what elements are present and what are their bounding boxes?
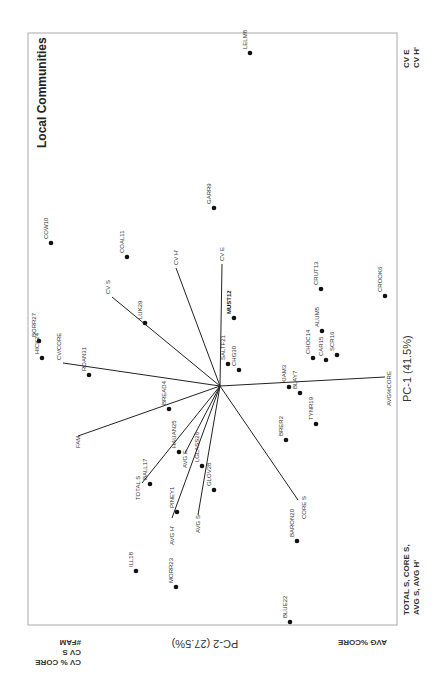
point-label: BLAY7 bbox=[292, 370, 298, 389]
vector-label: CV S bbox=[105, 280, 111, 294]
vector-labels: CV S CV H' CV E CV/CORE FAM TOTAL S AVG … bbox=[56, 247, 392, 545]
pc2-neg-label-2: AVG S, AVG H' bbox=[412, 560, 421, 615]
data-point bbox=[148, 482, 153, 487]
vector-label: AVG S bbox=[195, 515, 201, 533]
point-label: SCR16 bbox=[329, 331, 335, 351]
data-point bbox=[335, 353, 340, 358]
point-label: CAR15 bbox=[318, 336, 324, 356]
data-point bbox=[237, 368, 242, 373]
pc2-axis-label: PC-2 (27.5%) bbox=[172, 638, 239, 650]
data-point bbox=[49, 241, 54, 246]
point-label: BLUE22 bbox=[282, 595, 288, 618]
point-label: HICK24 bbox=[34, 332, 40, 354]
point-label: GARR9 bbox=[206, 183, 212, 204]
data-point bbox=[167, 407, 172, 412]
point-label: CHG30 bbox=[231, 345, 237, 366]
vector-core-s bbox=[220, 386, 298, 500]
point-label: ALUM5 bbox=[314, 306, 320, 327]
data-point bbox=[134, 569, 139, 574]
pc1-axis-label: PC-1 (41.5%) bbox=[401, 335, 413, 402]
pc1-neg-label-3: #FAM bbox=[59, 638, 81, 647]
vector-label: TOTAL S bbox=[135, 476, 141, 500]
data-point bbox=[383, 294, 388, 299]
data-point bbox=[314, 422, 319, 427]
pc2-pos-label-2: CV H' bbox=[412, 47, 421, 68]
point-label: GLOV28 bbox=[206, 462, 212, 486]
data-point bbox=[212, 206, 217, 211]
point-label: COAL11 bbox=[119, 230, 125, 253]
data-point bbox=[295, 539, 300, 544]
point-label: LUK29 bbox=[137, 300, 143, 319]
data-point bbox=[232, 316, 237, 321]
chart-title: Local Communities bbox=[35, 37, 49, 148]
data-point bbox=[311, 356, 316, 361]
plot-frame bbox=[28, 33, 397, 625]
point-label: BRER2 bbox=[278, 415, 284, 436]
sample-points: LELM8GARR9COW10COAL11BORR27HICK24LUK29MU… bbox=[31, 29, 387, 624]
data-point bbox=[298, 391, 303, 396]
data-point bbox=[40, 356, 45, 361]
vector-avg-s bbox=[198, 386, 220, 515]
loading-vectors bbox=[63, 264, 385, 518]
point-label: CRUT13 bbox=[313, 261, 319, 285]
pc1-pos-label: AVG %CORE bbox=[337, 638, 387, 647]
pc1-neg-label-2: CV S bbox=[62, 648, 81, 657]
pc2-neg-label-1: TOTAL S, CORE S, bbox=[402, 544, 411, 615]
vector-label: CV/CORE bbox=[56, 333, 62, 360]
data-point bbox=[320, 329, 325, 334]
vector-cv-e bbox=[220, 264, 222, 386]
pc2-pos-label-1: CV E bbox=[402, 49, 411, 68]
data-point bbox=[174, 585, 179, 590]
vector-label: FAM bbox=[75, 436, 81, 448]
point-label: COW10 bbox=[43, 217, 49, 239]
point-label: HAUAN25 bbox=[171, 420, 177, 448]
data-point bbox=[319, 287, 324, 292]
point-label: KIAM3 bbox=[281, 364, 287, 383]
data-point bbox=[87, 373, 92, 378]
data-point bbox=[175, 510, 180, 515]
point-label: MORR23 bbox=[168, 557, 174, 583]
point-label: PINEY1 bbox=[169, 486, 175, 508]
data-point bbox=[226, 362, 231, 367]
biplot-chart: CV S CV H' CV E CV/CORE FAM TOTAL S AVG … bbox=[0, 0, 443, 677]
data-point bbox=[200, 464, 205, 469]
data-point bbox=[177, 450, 182, 455]
vector-label: CV E bbox=[219, 247, 225, 261]
vector-label: AVG%CORE bbox=[386, 371, 392, 406]
data-point bbox=[143, 321, 148, 326]
data-point bbox=[287, 385, 292, 390]
data-point bbox=[125, 255, 130, 260]
data-point bbox=[324, 358, 329, 363]
point-label: SALTF21 bbox=[220, 334, 226, 360]
vector-fam bbox=[78, 386, 220, 436]
vector-label: CORE S bbox=[301, 496, 307, 519]
vector-avg-pct-core bbox=[220, 377, 385, 386]
vector-label: AVG H' bbox=[169, 526, 175, 545]
point-label: LELM8 bbox=[242, 29, 248, 49]
point-label: MUST12 bbox=[226, 290, 232, 314]
pc1-neg-label-1: CV % CORE bbox=[35, 658, 81, 667]
point-label: CHOC14 bbox=[305, 329, 311, 354]
vector-label: AVG E bbox=[182, 450, 188, 468]
point-label: LGLASS26 bbox=[194, 431, 200, 462]
point-label: BARON20 bbox=[289, 508, 295, 537]
data-point bbox=[248, 51, 253, 56]
point-label: BREAD4 bbox=[161, 380, 167, 405]
data-point bbox=[284, 438, 289, 443]
data-point bbox=[212, 488, 217, 493]
data-point bbox=[288, 620, 293, 625]
point-label: ROAN31 bbox=[81, 346, 87, 371]
point-label: BALL17 bbox=[142, 458, 148, 480]
point-label: ILL18 bbox=[128, 551, 134, 567]
point-label: TYNR19 bbox=[308, 396, 314, 420]
vector-label: CV H' bbox=[173, 250, 179, 265]
point-label: CROOK6 bbox=[377, 266, 383, 292]
